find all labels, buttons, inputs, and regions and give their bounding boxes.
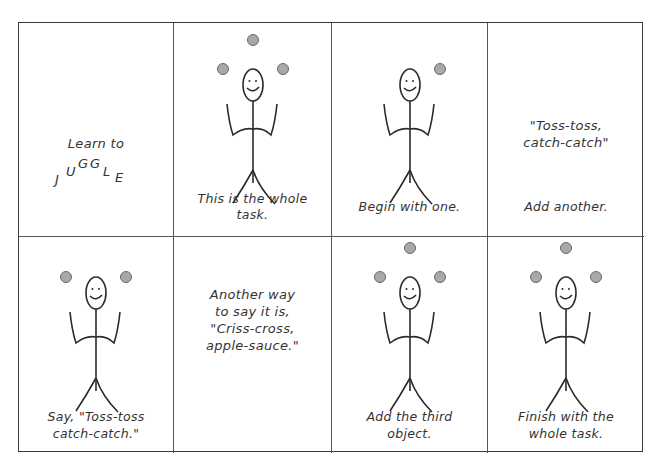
panel-begin-with-one: Begin with one.: [332, 23, 488, 237]
juggle-letter-g1: G: [78, 156, 88, 171]
juggle-letter-l: L: [103, 164, 111, 179]
text-line-1: Another way: [174, 287, 331, 302]
panel-learn-to-juggle: Learn to J U G G L E: [19, 23, 174, 237]
juggle-letter-u: U: [66, 164, 76, 179]
caption-line-1: Add another.: [488, 199, 644, 214]
caption-line-2: object.: [332, 426, 487, 441]
stick-figure-one-ball-icon: [365, 31, 455, 211]
juggle-letter-g2: G: [90, 156, 100, 171]
learn-to-label: Learn to: [19, 136, 173, 151]
panel-add-third: Add the third object.: [332, 237, 488, 453]
juggle-letter-e: E: [115, 170, 124, 185]
text-line-4: apple-sauce.": [174, 338, 331, 353]
caption-line-1: Finish with the: [488, 409, 644, 424]
quote-line-1: "Toss-toss,: [488, 118, 644, 133]
stick-figure-two-balls-icon: [51, 239, 141, 419]
panel-finish-whole-task: Finish with the whole task.: [488, 237, 644, 453]
juggle-wordart: J U G G L E: [19, 156, 173, 196]
panel-say-toss-toss: Say, "Toss-toss catch-catch.": [19, 237, 174, 453]
caption-line-2: task.: [174, 207, 331, 222]
caption-line-2: whole task.: [488, 426, 644, 441]
stick-figure-three-balls-icon: [521, 239, 611, 419]
quote-line-2: catch-catch": [488, 135, 644, 150]
juggle-letter-j: J: [55, 172, 59, 187]
text-line-3: "Criss-cross,: [174, 321, 331, 336]
caption-line-1: Add the third: [332, 409, 487, 424]
panel-add-another: "Toss-toss, catch-catch" Add another.: [488, 23, 644, 237]
panel-whole-task: This is the whole task.: [174, 23, 332, 237]
stick-figure-three-balls-icon: [208, 31, 298, 211]
caption-line-1: Say, "Toss-toss: [19, 409, 173, 424]
text-line-2: to say it is,: [174, 304, 331, 319]
caption-line-2: catch-catch.": [19, 426, 173, 441]
caption-line-1: This is the whole: [174, 191, 331, 206]
caption-line-1: Begin with one.: [332, 199, 487, 214]
panel-criss-cross: Another way to say it is, "Criss-cross, …: [174, 237, 332, 453]
juggling-storyboard-grid: Learn to J U G G L E This is the whole t…: [18, 22, 643, 452]
stick-figure-three-balls-icon: [365, 239, 455, 419]
